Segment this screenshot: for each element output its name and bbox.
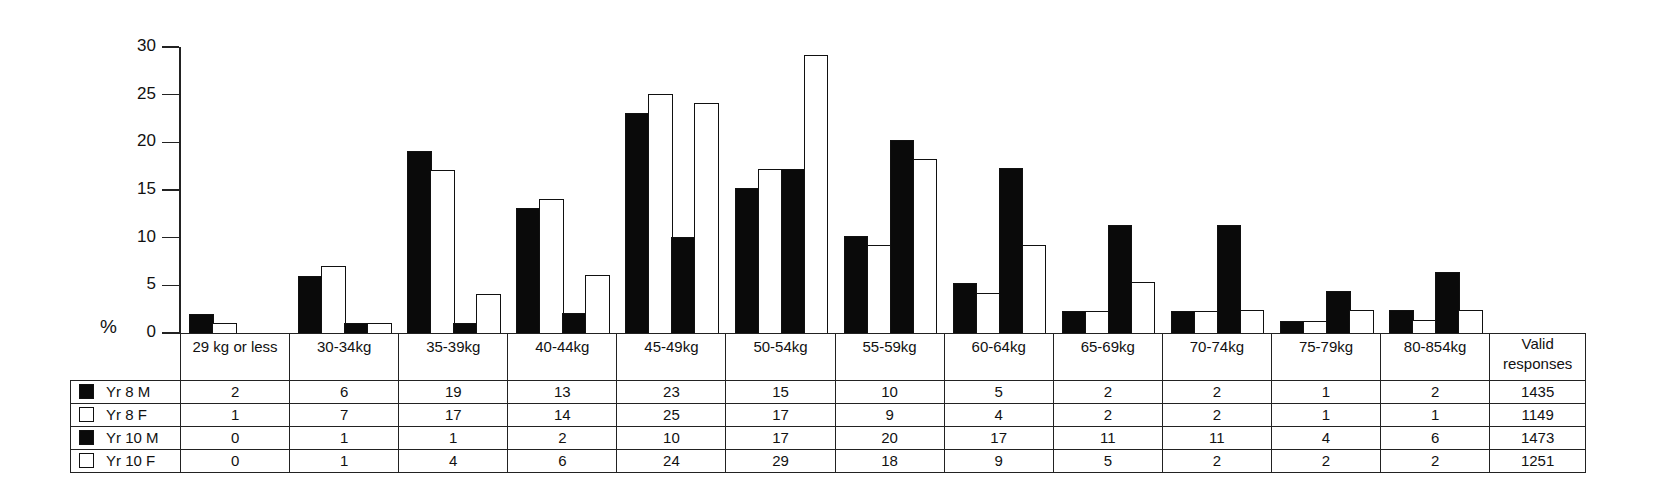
- table-cell: 15: [726, 381, 835, 404]
- bar-yr-10-f: [913, 159, 938, 334]
- table-cell: 4: [1271, 427, 1380, 450]
- bar-yr-8-m: [1389, 310, 1414, 334]
- bar-yr-10-m: [1108, 225, 1133, 334]
- table-cell: 1: [181, 404, 290, 427]
- bar-yr-8-m: [625, 113, 650, 334]
- table-cell: 6: [508, 450, 617, 473]
- table-cell: 19: [399, 381, 508, 404]
- table-cell: 9: [835, 404, 944, 427]
- table-cell: 5: [944, 381, 1053, 404]
- bar-yr-10-m: [1435, 272, 1460, 334]
- legend-entry: Yr 8 M: [71, 381, 181, 404]
- y-tick-label: 30: [116, 36, 156, 56]
- table-cell: 2: [1381, 450, 1490, 473]
- table-cell: 11: [1162, 427, 1271, 450]
- table-row: Yr 10 F0146242918952221251: [71, 450, 1586, 473]
- bar-yr-8-m: [1171, 311, 1196, 334]
- column-header: 29 kg or less: [181, 334, 290, 381]
- valid-responses-cell: 1473: [1490, 427, 1586, 450]
- bar-yr-8-m: [953, 283, 978, 334]
- column-header: 65-69kg: [1053, 334, 1162, 381]
- table-row: Yr 10 M0112101720171111461473: [71, 427, 1586, 450]
- column-header: 35-39kg: [399, 334, 508, 381]
- bar-yr-8-m: [298, 276, 323, 334]
- y-tick-label: 15: [116, 179, 156, 199]
- table-cell: 10: [835, 381, 944, 404]
- table-cell: 24: [617, 450, 726, 473]
- bar-yr-10-f: [1131, 282, 1156, 334]
- bar-yr-8-f: [321, 266, 346, 334]
- table-cell: 2: [1162, 450, 1271, 473]
- table-cell: 25: [617, 404, 726, 427]
- bar-yr-10-f: [585, 275, 610, 334]
- table-cell: 29: [726, 450, 835, 473]
- table-cell: 17: [399, 404, 508, 427]
- table-cell: 2: [181, 381, 290, 404]
- legend-entry: Yr 10 F: [71, 450, 181, 473]
- table-cell: 10: [617, 427, 726, 450]
- bar-yr-10-f: [1240, 310, 1265, 334]
- table-cell: 17: [726, 404, 835, 427]
- valid-responses-cell: 1435: [1490, 381, 1586, 404]
- bar-yr-8-m: [1062, 311, 1087, 334]
- table-cell: 2: [508, 427, 617, 450]
- column-header: 75-79kg: [1271, 334, 1380, 381]
- bar-yr-8-f: [539, 199, 564, 334]
- series-label: Yr 8 F: [106, 406, 147, 423]
- table-cell: 2: [1271, 450, 1380, 473]
- bar-yr-8-f: [867, 245, 892, 334]
- series-label: Yr 10 M: [106, 429, 159, 446]
- table-row: Yr 8 F17171425179422111149: [71, 404, 1586, 427]
- table-cell: 1: [290, 427, 399, 450]
- data-table: 29 kg or less30-34kg35-39kg40-44kg45-49k…: [70, 333, 1586, 473]
- black-swatch-icon: [79, 384, 94, 399]
- y-tick-mark: [162, 46, 179, 48]
- table-cell: 9: [944, 450, 1053, 473]
- bar-yr-8-f: [1085, 311, 1110, 334]
- table-cell: 20: [835, 427, 944, 450]
- table-cell: 2: [1162, 381, 1271, 404]
- bar-yr-10-m: [562, 313, 587, 334]
- column-header: 30-34kg: [290, 334, 399, 381]
- table-cell: 1: [399, 427, 508, 450]
- bar-yr-10-f: [1022, 245, 1047, 334]
- table-cell: 2: [1162, 404, 1271, 427]
- y-tick-mark: [162, 142, 179, 144]
- column-header: 60-64kg: [944, 334, 1053, 381]
- table-cell: 1: [1271, 404, 1380, 427]
- y-tick-mark: [162, 94, 179, 96]
- y-tick-mark: [162, 285, 179, 287]
- column-header: 45-49kg: [617, 334, 726, 381]
- column-header: 50-54kg: [726, 334, 835, 381]
- bar-yr-8-m: [735, 188, 760, 334]
- series-label: Yr 10 F: [106, 452, 155, 469]
- table-cell: 0: [181, 450, 290, 473]
- bar-yr-8-m: [407, 151, 432, 334]
- table-corner-blank: [71, 334, 181, 381]
- bar-yr-8-m: [1280, 321, 1305, 334]
- y-tick-label: 5: [116, 274, 156, 294]
- table-cell: 6: [1381, 427, 1490, 450]
- table-cell: 7: [290, 404, 399, 427]
- table-cell: 23: [617, 381, 726, 404]
- bar-yr-8-f: [1412, 320, 1437, 334]
- bar-yr-10-m: [671, 237, 696, 334]
- bar-yr-8-m: [189, 314, 214, 334]
- bar-yr-8-f: [430, 170, 455, 334]
- bar-yr-10-m: [781, 169, 806, 334]
- bar-yr-10-f: [1458, 310, 1483, 334]
- valid-responses-header: Validresponses: [1490, 334, 1586, 381]
- table-cell: 2: [1053, 381, 1162, 404]
- table-cell: 2: [1053, 404, 1162, 427]
- bar-yr-8-f: [976, 293, 1001, 334]
- y-tick-label: 10: [116, 227, 156, 247]
- bar-yr-8-f: [1303, 321, 1328, 334]
- series-label: Yr 8 M: [106, 383, 150, 400]
- column-header: 40-44kg: [508, 334, 617, 381]
- y-tick-label: 20: [116, 131, 156, 151]
- white-swatch-icon: [79, 407, 94, 422]
- table-cell: 11: [1053, 427, 1162, 450]
- valid-responses-cell: 1149: [1490, 404, 1586, 427]
- table-cell: 14: [508, 404, 617, 427]
- bar-yr-8-m: [516, 208, 541, 334]
